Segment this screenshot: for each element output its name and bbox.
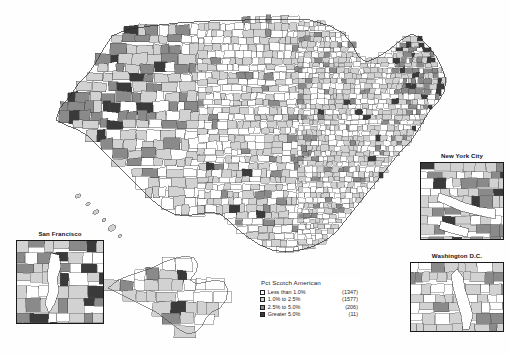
county-polygon [290, 23, 298, 31]
inset-county-polygon [450, 188, 458, 196]
county-polygon [214, 92, 221, 100]
county-polygon [323, 105, 330, 110]
county-polygon [322, 230, 328, 234]
county-polygon [87, 73, 103, 81]
county-polygon [350, 140, 356, 146]
county-polygon [367, 74, 374, 79]
county-polygon [304, 52, 312, 57]
county-polygon [302, 68, 307, 73]
county-polygon [303, 94, 310, 100]
county-polygon [116, 63, 125, 71]
county-polygon [286, 64, 295, 70]
county-polygon [216, 150, 225, 155]
county-polygon [375, 145, 381, 152]
county-polygon [136, 120, 148, 128]
county-polygon [197, 155, 205, 161]
county-polygon [140, 91, 157, 102]
county-polygon [324, 120, 331, 125]
county-polygon [217, 64, 228, 70]
inset-county-polygon [429, 272, 437, 279]
county-polygon [336, 219, 342, 223]
county-polygon [258, 155, 270, 161]
county-polygon [387, 125, 395, 130]
inset-county-polygon [490, 323, 497, 331]
county-polygon [241, 149, 250, 154]
county-polygon [323, 62, 330, 67]
county-polygon [282, 185, 288, 190]
county-polygon [224, 50, 235, 58]
inset-title-san-francisco: San Francisco [16, 230, 104, 238]
county-polygon [278, 51, 284, 59]
county-polygon [388, 63, 395, 67]
county-polygon [239, 65, 250, 71]
county-polygon [433, 73, 438, 78]
county-polygon [265, 29, 271, 37]
county-polygon [323, 177, 329, 181]
county-polygon [315, 218, 319, 223]
county-polygon [158, 167, 167, 177]
legend-swatch-icon [260, 290, 265, 295]
county-polygon [242, 101, 248, 106]
inset-county-polygon [500, 195, 504, 208]
county-polygon [281, 156, 290, 163]
county-polygon [297, 167, 305, 173]
county-polygon [92, 82, 107, 92]
county-polygon [428, 73, 432, 79]
county-polygon [286, 99, 296, 105]
county-polygon [223, 37, 231, 44]
inset-county-polygon [452, 323, 463, 332]
county-polygon [317, 197, 325, 202]
inset-county-polygon [418, 263, 431, 269]
county-polygon [386, 99, 392, 104]
county-polygon [258, 233, 269, 239]
county-polygon [356, 104, 361, 109]
county-polygon [254, 36, 260, 43]
county-polygon [287, 183, 295, 189]
county-polygon [334, 63, 339, 67]
county-polygon [348, 182, 354, 188]
county-polygon [333, 73, 338, 78]
county-polygon [197, 72, 206, 80]
county-polygon [318, 224, 325, 228]
county-polygon [314, 150, 321, 155]
county-polygon [245, 156, 251, 163]
inset-county-polygon [84, 312, 93, 323]
county-polygon [360, 69, 364, 74]
county-polygon [197, 80, 208, 85]
county-polygon [168, 74, 182, 82]
inset-county-polygon [424, 324, 437, 332]
county-polygon [230, 184, 241, 190]
county-polygon [350, 109, 355, 115]
county-polygon [261, 169, 267, 178]
county-polygon [175, 258, 192, 271]
county-polygon [131, 52, 148, 65]
county-polygon [339, 57, 347, 63]
county-polygon [412, 72, 420, 77]
inset-county-polygon [490, 236, 501, 240]
county-polygon [270, 107, 278, 115]
county-polygon [400, 120, 407, 125]
county-polygon [406, 42, 411, 48]
county-polygon [326, 150, 331, 155]
legend-class-label: 1.0% to 2.5% [268, 296, 324, 303]
county-polygon [312, 166, 316, 172]
inset-county-polygon [411, 263, 418, 273]
county-polygon [362, 104, 369, 109]
legend-class-count: (1347) [324, 289, 358, 296]
county-polygon [374, 72, 382, 78]
county-polygon [348, 162, 354, 167]
county-polygon [258, 79, 266, 85]
county-polygon [367, 183, 375, 189]
county-polygon [263, 219, 275, 225]
county-polygon [424, 105, 429, 110]
county-polygon [344, 100, 351, 106]
county-polygon [420, 105, 424, 109]
county-polygon [438, 72, 444, 78]
county-polygon [156, 292, 176, 302]
county-polygon [272, 212, 279, 218]
inset-county-polygon [497, 323, 504, 331]
county-polygon [331, 182, 337, 188]
county-polygon [146, 267, 159, 279]
county-polygon [393, 78, 400, 84]
county-polygon [329, 58, 334, 63]
